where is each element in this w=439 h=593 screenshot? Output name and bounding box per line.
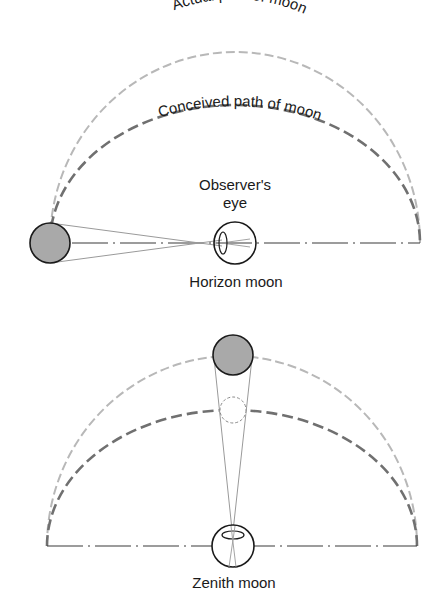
zenith-moon-caption: Zenith moon xyxy=(192,574,275,591)
horizon-moon-panel: Actual path of moon Conceived path of mo… xyxy=(30,0,420,290)
observer-eye-icon-zenith xyxy=(212,525,254,567)
zenith-moon-panel: Zenith moon xyxy=(47,335,417,591)
actual-path-label: Actual path of moon xyxy=(170,0,310,17)
horizon-moon xyxy=(30,223,70,263)
actual-path-arc-zenith xyxy=(47,356,417,546)
observer-label-line2: eye xyxy=(223,194,247,211)
conceived-path-label: Conceived path of moon xyxy=(156,92,324,123)
moon-illusion-diagram: Actual path of moon Conceived path of mo… xyxy=(0,0,439,593)
apparent-moon-position xyxy=(220,397,246,423)
horizon-moon-caption: Horizon moon xyxy=(189,273,282,290)
zenith-moon xyxy=(213,335,253,375)
actual-path-arc xyxy=(50,52,420,243)
observer-label-line1: Observer's xyxy=(199,176,271,193)
